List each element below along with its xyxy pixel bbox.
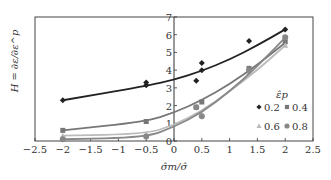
y-tick-label: 4 bbox=[166, 65, 172, 76]
circle-marker bbox=[199, 113, 205, 119]
legend-entry-0.6: 0.6 bbox=[256, 121, 280, 132]
circle-marker bbox=[60, 136, 66, 142]
diamond-marker bbox=[246, 38, 252, 44]
chart: −2.5−2−1.5−1−0.500.511.522.501234567σ̂m/… bbox=[0, 0, 331, 180]
x-axis-title: σ̂m/σ̂ bbox=[161, 161, 189, 172]
diamond-marker bbox=[60, 97, 66, 103]
x-tick-label: 1 bbox=[226, 144, 232, 155]
legend-label: 0.2 bbox=[264, 102, 280, 113]
diamond-marker bbox=[199, 60, 205, 66]
circle-marker bbox=[143, 134, 149, 140]
legend-entry-0.8: 0.8 bbox=[284, 121, 308, 132]
y-tick-label: 3 bbox=[166, 83, 172, 94]
circle-marker bbox=[193, 104, 199, 110]
x-tick-label: −2 bbox=[55, 144, 70, 155]
x-tick-label: 2 bbox=[282, 144, 288, 155]
y-axis-title: H = ∂ε/∂ε^p bbox=[9, 29, 20, 93]
square-marker bbox=[285, 105, 289, 109]
legend-label: 0.6 bbox=[264, 121, 280, 132]
legend-label: 0.4 bbox=[292, 102, 308, 113]
legend-entry-0.2: 0.2 bbox=[256, 102, 280, 113]
legend-title: ε̂p bbox=[276, 89, 288, 100]
circle-marker bbox=[282, 34, 288, 40]
square-marker bbox=[199, 100, 204, 105]
y-tick-label: 2 bbox=[166, 101, 172, 112]
x-tick-label: −1.5 bbox=[78, 144, 102, 155]
legend-entry-0.4: 0.4 bbox=[285, 102, 308, 113]
square-marker bbox=[60, 128, 65, 133]
y-tick-label: 5 bbox=[166, 47, 172, 58]
diamond-marker bbox=[256, 104, 261, 109]
x-tick-label: 0.5 bbox=[194, 144, 210, 155]
legend-label: 0.8 bbox=[292, 121, 308, 132]
x-tick-label: −1 bbox=[111, 144, 126, 155]
y-tick-label: 6 bbox=[166, 30, 172, 41]
x-tick-label: −0.5 bbox=[134, 144, 158, 155]
circle-marker bbox=[246, 67, 252, 73]
square-marker bbox=[144, 119, 149, 124]
legend: ε̂p0.20.40.60.8 bbox=[256, 89, 308, 132]
y-tick-label: 0 bbox=[166, 136, 172, 147]
x-tick-label: −2.5 bbox=[23, 144, 47, 155]
x-tick-label: 1.5 bbox=[249, 144, 265, 155]
circle-marker bbox=[284, 123, 289, 128]
y-tick-label: 7 bbox=[166, 12, 172, 23]
triangle-marker bbox=[256, 123, 261, 128]
diamond-marker bbox=[193, 78, 199, 84]
x-tick-label: 2.5 bbox=[305, 144, 321, 155]
